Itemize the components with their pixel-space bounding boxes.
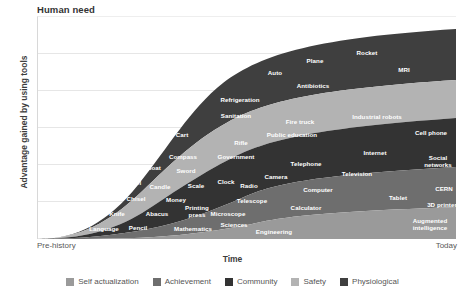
data-point-label: Industrial robots	[352, 113, 402, 120]
x-axis-start-label: Pre-history	[37, 241, 76, 250]
y-axis-title: Advantage gained by using tools	[19, 22, 29, 222]
data-point-label: Telephone	[291, 160, 322, 167]
data-point-label: Language	[89, 225, 119, 232]
data-point-label: Printingpress	[185, 204, 209, 219]
data-point-label: Clock	[217, 178, 234, 185]
data-point-label: Engineering	[256, 228, 292, 235]
data-point-label: Mathematics	[174, 225, 212, 232]
data-point-label: Compass	[169, 153, 197, 160]
data-point-label: Auto	[268, 69, 282, 76]
data-point-label: Sword	[176, 167, 195, 174]
data-point-label: Television	[342, 170, 372, 177]
data-point-label: Rifle	[234, 139, 248, 146]
data-point-label: Antibiotics	[297, 82, 330, 89]
legend: Self actualizationAchievementCommunitySa…	[0, 277, 465, 286]
data-point-label: Knife	[109, 210, 125, 217]
data-point-label: Plane	[307, 57, 324, 64]
data-point-label: 3D printer	[427, 201, 456, 208]
data-point-label: Rocket	[357, 49, 378, 56]
x-axis-end-label: Today	[436, 241, 457, 250]
legend-swatch	[153, 278, 161, 286]
data-point-label: Sanitation	[221, 112, 251, 119]
legend-item[interactable]: Safety	[291, 277, 326, 286]
data-point-label: Cell phone	[415, 129, 447, 136]
data-point-label: Cart	[176, 131, 189, 138]
legend-item[interactable]: Physiological	[340, 277, 399, 286]
data-point-label: Sciences	[220, 221, 247, 228]
legend-label: Community	[237, 277, 277, 286]
data-point-label: Government	[218, 153, 255, 160]
data-point-label: Internet	[363, 149, 386, 156]
legend-label: Physiological	[352, 277, 399, 286]
x-axis-title: Time	[0, 254, 465, 264]
data-point-label: Microscope	[211, 210, 246, 217]
data-point-label: Fire	[46, 209, 58, 216]
legend-swatch	[340, 278, 348, 286]
plot-area: FireAxeLanguageFish-hookKnifeSawChiselPe…	[37, 16, 456, 239]
data-point-label: Saw	[104, 195, 117, 202]
data-point-label: Radio	[240, 182, 257, 189]
chart-title: Human need	[37, 4, 95, 15]
data-point-label: CERN	[435, 185, 453, 192]
legend-swatch	[225, 278, 233, 286]
data-point-label: Money	[166, 196, 186, 203]
legend-swatch	[66, 278, 74, 286]
data-point-label: Axe	[62, 223, 74, 230]
legend-label: Achievement	[165, 277, 211, 286]
data-point-label: Scale	[188, 182, 204, 189]
data-point-label: Augmentedintelligence	[413, 217, 448, 232]
legend-item[interactable]: Self actualization	[66, 277, 138, 286]
data-point-label: Boat	[147, 164, 161, 171]
data-point-label: Computer	[303, 186, 333, 193]
data-point-label: Chisel	[127, 195, 146, 202]
data-point-label: Fish-hook	[73, 206, 103, 213]
data-point-label: Wheel	[123, 179, 141, 186]
data-point-label: MRI	[398, 66, 410, 73]
chart-root: Human need Advantage gained by using too…	[0, 0, 465, 305]
data-point-label: Calculator	[291, 204, 322, 211]
data-point-label: Refrigeration	[220, 96, 259, 103]
data-point-label: Public education	[267, 131, 317, 138]
legend-swatch	[291, 278, 299, 286]
legend-item[interactable]: Community	[225, 277, 277, 286]
data-point-label: Pencil	[129, 224, 148, 231]
legend-label: Self actualization	[78, 277, 138, 286]
data-point-label: Candle	[150, 183, 171, 190]
data-point-label: Fire truck	[286, 118, 315, 125]
data-point-label: Socialnetworks	[424, 154, 452, 169]
data-point-label: Tablet	[389, 194, 407, 201]
data-point-label: Camera	[264, 173, 287, 180]
legend-item[interactable]: Achievement	[153, 277, 211, 286]
data-point-label: Telescope	[237, 197, 267, 204]
data-point-label: Abacus	[146, 210, 169, 217]
legend-label: Safety	[303, 277, 326, 286]
